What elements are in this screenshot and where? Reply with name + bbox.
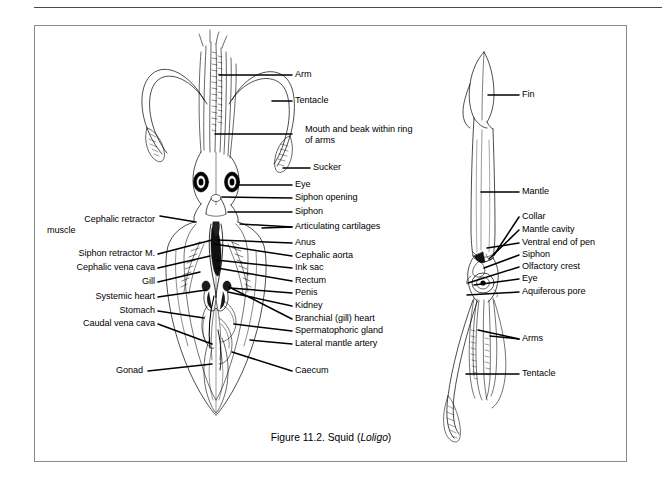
label-aquiferous-pore: Aquiferous pore — [522, 286, 585, 297]
label-gonad: Gonad — [116, 365, 143, 376]
label-penis: Penis — [295, 287, 318, 298]
label-siphon-retractor-m: Siphon retractor M. — [79, 248, 155, 259]
label-collar: Collar — [522, 211, 545, 222]
label-branchial-gill-heart: Branchial (gill) heart — [295, 313, 375, 324]
label-siphon: Siphon — [295, 206, 323, 217]
label-fin: Fin — [522, 89, 534, 100]
label-siphon-opening: Siphon opening — [295, 192, 358, 203]
label-ventral-end-of-pen: Ventral end of pen — [522, 237, 595, 248]
label-anus: Anus — [295, 237, 316, 248]
caption-genus: Loligo — [360, 432, 387, 443]
label-tentacle: Tentacle — [295, 95, 328, 106]
label-arm: Arm — [295, 69, 312, 80]
label-olfactory-crest: Olfactory crest — [522, 261, 580, 272]
label-cephalic-aorta: Cephalic aorta — [295, 250, 353, 261]
label-cephalic-retractor-muscle-line2: muscle — [47, 225, 76, 236]
label-gill: Gill — [142, 276, 155, 287]
label-cephalic-retractor-muscle-line1: Cephalic retractor — [84, 214, 155, 225]
label-lateral-mantle-artery: Lateral mantle artery — [295, 338, 377, 349]
label-spermatophoric-gland: Spermatophoric gland — [295, 325, 383, 336]
label-eye-right: Eye — [522, 273, 538, 284]
caption-prefix: Figure 11.2. Squid ( — [271, 432, 361, 443]
label-articulating-cartilages: Articulating cartilages — [295, 221, 380, 232]
label-caudal-vena-cava: Caudal vena cava — [83, 318, 155, 329]
label-cephalic-vena-cava: Cephalic vena cava — [77, 262, 155, 273]
label-stomach: Stomach — [119, 305, 155, 316]
top-horizontal-rule — [34, 7, 662, 8]
label-ink-sac: Ink sac — [295, 262, 323, 273]
label-systemic-heart: Systemic heart — [96, 291, 155, 302]
figure-page: Arm Tentacle Mouth and beak within ring … — [0, 0, 662, 477]
label-sucker: Sucker — [313, 162, 341, 173]
label-rectum: Rectum — [295, 275, 326, 286]
label-siphon-right: Siphon — [522, 249, 550, 260]
label-caecum: Caecum — [295, 365, 329, 376]
label-tentacle-right: Tentacle — [522, 368, 555, 379]
label-kidney: Kidney — [295, 300, 323, 311]
label-eye: Eye — [295, 179, 311, 190]
label-mantle: Mantle — [522, 186, 549, 197]
figure-caption: Figure 11.2. Squid (Loligo) — [0, 432, 662, 443]
caption-suffix: ) — [388, 432, 391, 443]
label-mouth-and-beak: Mouth and beak within ring of arms — [305, 124, 417, 146]
label-mantle-cavity: Mantle cavity — [522, 224, 574, 235]
label-arms: Arms — [522, 333, 543, 344]
